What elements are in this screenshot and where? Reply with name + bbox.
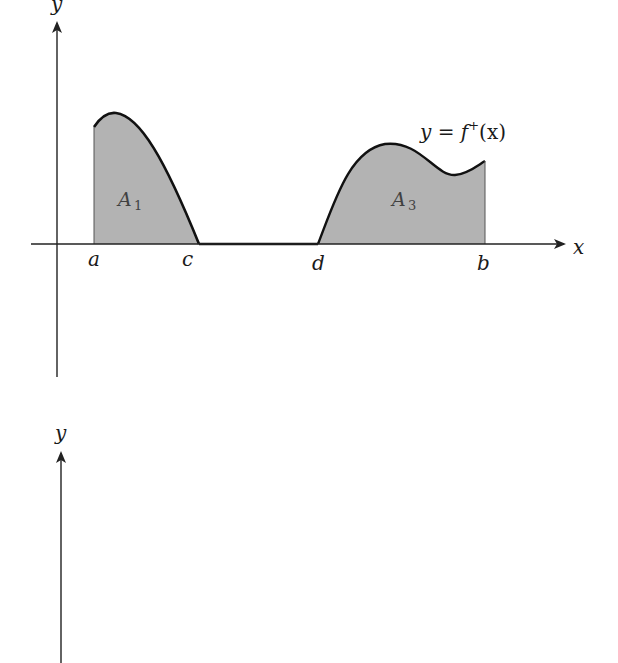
svg-text:y = f+(x): y = f+(x) — [419, 118, 506, 144]
svg-text:A: A — [116, 188, 132, 210]
curve-label-superscript: + — [468, 118, 479, 133]
svg-text:A: A — [390, 188, 406, 210]
svg-text:1: 1 — [134, 198, 142, 213]
x-axis-label: x — [573, 235, 584, 259]
y-axis-label-top: y — [50, 0, 63, 16]
curve-label: y = f+(x) — [419, 118, 506, 144]
region-a1-fill — [94, 113, 199, 244]
figure-canvas: y x a c d b A 1 A 3 y = f+(x) y — [0, 0, 618, 663]
top-plot: y x a c d b A 1 A 3 y = f+(x) — [31, 0, 584, 377]
tick-label-c: c — [182, 247, 193, 271]
tick-label-d: d — [312, 251, 325, 275]
tick-label-a: a — [88, 247, 100, 271]
tick-label-b: b — [477, 251, 490, 275]
bottom-plot: y — [54, 421, 67, 663]
y-axis-label-bottom: y — [54, 421, 67, 445]
curve-label-prefix: y = f — [419, 120, 472, 144]
svg-text:3: 3 — [408, 198, 416, 213]
curve-label-suffix: (x) — [479, 120, 506, 144]
